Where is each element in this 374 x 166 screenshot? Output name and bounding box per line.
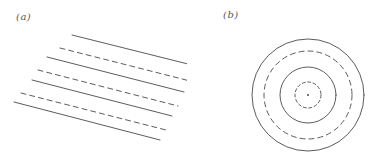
circular-wavefront-diagram [187, 0, 374, 166]
panel-b: (b) [187, 0, 374, 166]
figure-root: (a) (b) [0, 0, 374, 166]
panel-a: (a) [0, 0, 187, 166]
wavefront-line-dashed [60, 48, 187, 81]
wavefront-line-dashed [38, 70, 178, 106]
wavefront-line-dashed [21, 93, 166, 130]
wave-source-point [307, 94, 309, 96]
wavefront-line-solid [72, 35, 187, 66]
plane-wavefront-diagram [0, 0, 187, 166]
wavefront-line-solid [32, 80, 172, 116]
